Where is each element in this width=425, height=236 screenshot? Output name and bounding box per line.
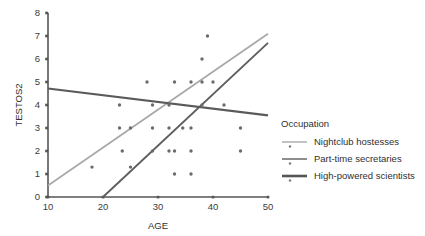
chart-container: 012345678 1020304050 TESTOS2 AGE Occupat… — [0, 0, 425, 236]
legend[interactable]: OccupationNightclub hostessesPart-time s… — [281, 118, 415, 182]
x-tick-label: 30 — [153, 201, 164, 212]
y-tick-mark — [45, 104, 48, 107]
data-point — [167, 103, 170, 106]
x-tick-label: 10 — [43, 201, 54, 212]
legend-item-label: Nightclub hostesses — [314, 136, 399, 147]
y-axis-ticks: 012345678 — [35, 7, 48, 202]
x-axis-ticks: 1020304050 — [43, 196, 274, 212]
data-point — [151, 126, 154, 129]
y-tick-label: 6 — [35, 53, 40, 64]
y-tick-mark — [45, 12, 48, 15]
data-point — [189, 172, 192, 175]
y-tick-label: 3 — [35, 122, 40, 133]
data-point — [239, 149, 242, 152]
x-tick-mark — [47, 196, 50, 199]
data-point — [200, 103, 203, 106]
y-tick-mark — [45, 173, 48, 176]
legend-item[interactable]: High-powered scientists — [282, 170, 415, 182]
legend-item-label: Part-time secretaries — [314, 153, 402, 164]
y-tick-mark — [45, 81, 48, 84]
legend-title: Occupation — [281, 118, 329, 129]
y-tick-mark — [45, 150, 48, 153]
data-point — [167, 149, 170, 152]
data-point — [200, 57, 203, 60]
data-point — [200, 80, 203, 83]
data-point — [151, 149, 154, 152]
data-point — [206, 34, 209, 37]
x-tick-label: 20 — [98, 201, 109, 212]
data-point — [189, 126, 192, 129]
trend-lines — [48, 34, 268, 197]
data-point — [173, 149, 176, 152]
y-tick-label: 1 — [35, 168, 40, 179]
x-tick-label: 50 — [263, 201, 274, 212]
data-point — [118, 103, 121, 106]
plot-axes — [48, 13, 268, 197]
x-axis-title: AGE — [148, 220, 168, 231]
y-tick-label: 4 — [35, 99, 40, 110]
data-point — [173, 172, 176, 175]
data-point — [189, 80, 192, 83]
x-tick-mark — [267, 196, 270, 199]
x-tick-label: 40 — [208, 201, 219, 212]
x-tick-mark — [157, 196, 160, 199]
legend-dot-swatch — [289, 162, 291, 164]
y-tick-label: 5 — [35, 76, 40, 87]
data-point — [189, 149, 192, 152]
legend-dot-swatch — [289, 145, 291, 147]
scatter-plot-svg: 012345678 1020304050 TESTOS2 AGE Occupat… — [0, 0, 425, 236]
data-points — [90, 34, 242, 175]
y-axis-title: TESTOS2 — [13, 83, 24, 126]
data-point — [90, 165, 93, 168]
legend-item[interactable]: Nightclub hostesses — [282, 136, 399, 148]
y-tick-mark — [45, 58, 48, 61]
legend-dot-swatch — [289, 179, 291, 181]
y-tick-label: 0 — [35, 191, 40, 202]
data-point — [121, 149, 124, 152]
trendline-nightclub-hostesses — [48, 34, 268, 186]
legend-item-label: High-powered scientists — [314, 170, 415, 181]
data-point — [129, 165, 132, 168]
data-point — [151, 103, 154, 106]
data-point — [239, 126, 242, 129]
legend-item[interactable]: Part-time secretaries — [282, 153, 402, 165]
y-tick-mark — [45, 35, 48, 38]
data-point — [145, 80, 148, 83]
x-tick-mark — [212, 196, 215, 199]
data-point — [167, 126, 170, 129]
trendline-high-powered-scientists — [48, 88, 268, 115]
y-tick-label: 2 — [35, 145, 40, 156]
data-point — [181, 126, 184, 129]
data-point — [173, 80, 176, 83]
data-point — [118, 126, 121, 129]
y-tick-label: 7 — [35, 30, 40, 41]
y-tick-label: 8 — [35, 7, 40, 18]
data-point — [211, 80, 214, 83]
trendline-part-time-secretaries — [103, 43, 268, 197]
data-point — [222, 103, 225, 106]
data-point — [129, 126, 132, 129]
y-tick-mark — [45, 127, 48, 130]
